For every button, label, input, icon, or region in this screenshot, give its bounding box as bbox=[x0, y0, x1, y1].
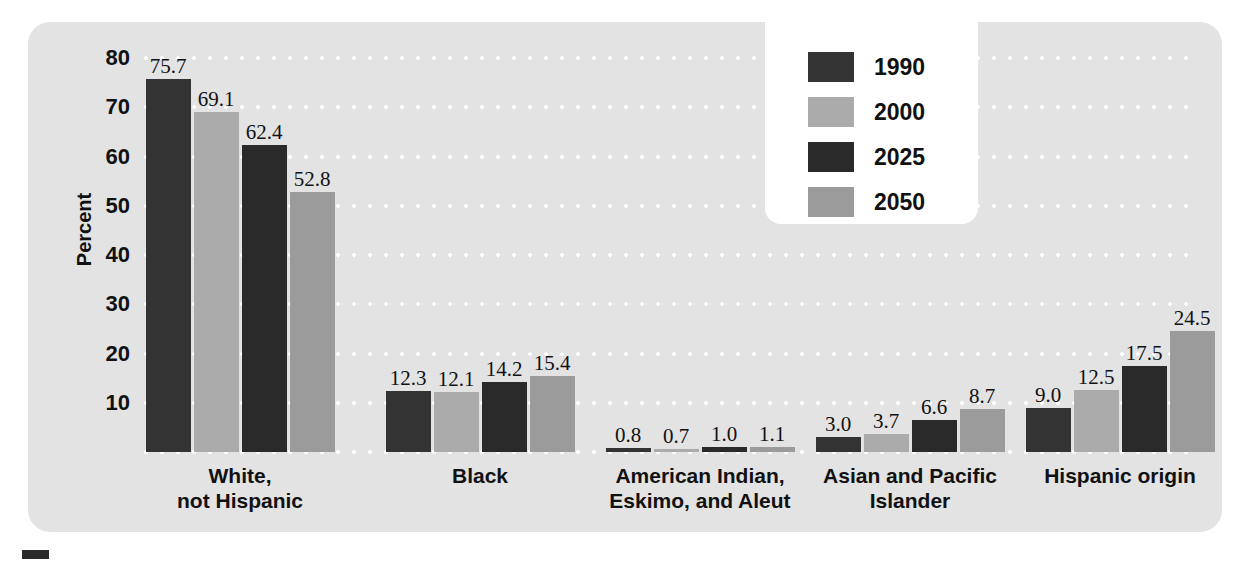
chart-panel: 8070605040302010 Percent 75.769.162.452.… bbox=[28, 22, 1222, 532]
legend-item-2000: 2000 bbox=[808, 93, 925, 131]
bar-value-label: 6.6 bbox=[921, 397, 947, 418]
bar-2050-0: 52.8 bbox=[290, 192, 335, 452]
y-tick-label-70: 70 bbox=[86, 96, 130, 118]
legend-label: 2025 bbox=[874, 146, 925, 169]
bar-value-label: 69.1 bbox=[198, 89, 235, 110]
bar-2025-0: 62.4 bbox=[242, 145, 287, 452]
y-axis-title: Percent bbox=[73, 140, 96, 320]
bar-2000-3: 3.7 bbox=[864, 434, 909, 452]
bar-2000-2: 0.7 bbox=[654, 449, 699, 452]
bar-value-label: 24.5 bbox=[1174, 308, 1211, 329]
bar-value-label: 12.1 bbox=[438, 369, 475, 390]
bar-2050-2: 1.1 bbox=[750, 447, 795, 452]
bar-2025-2: 1.0 bbox=[702, 447, 747, 452]
y-tick-label-10: 10 bbox=[86, 392, 130, 414]
legend-swatch-icon bbox=[808, 187, 854, 217]
bar-value-label: 3.7 bbox=[873, 411, 899, 432]
bar-value-label: 3.0 bbox=[825, 414, 851, 435]
legend-swatch-icon bbox=[808, 142, 854, 172]
bar-value-label: 75.7 bbox=[150, 56, 187, 77]
footnote-marker-swatch bbox=[22, 550, 49, 559]
bar-group-4: 9.012.517.524.5 bbox=[1026, 58, 1215, 452]
bar-2000-0: 69.1 bbox=[194, 112, 239, 452]
bar-1990-2: 0.8 bbox=[606, 448, 651, 452]
legend-item-2025: 2025 bbox=[808, 138, 925, 176]
legend-item-2050: 2050 bbox=[808, 183, 925, 221]
bar-2025-4: 17.5 bbox=[1122, 366, 1167, 452]
plot-area: 75.769.162.452.812.312.114.215.40.80.71.… bbox=[138, 58, 1198, 452]
bar-value-label: 1.0 bbox=[711, 424, 737, 445]
bar-value-label: 0.8 bbox=[615, 425, 641, 446]
bar-value-label: 17.5 bbox=[1126, 343, 1163, 364]
bar-value-label: 0.7 bbox=[663, 426, 689, 447]
bar-1990-4: 9.0 bbox=[1026, 408, 1071, 452]
bar-1990-0: 75.7 bbox=[146, 79, 191, 452]
bar-value-label: 52.8 bbox=[294, 169, 331, 190]
legend-item-1990: 1990 bbox=[808, 48, 925, 86]
bar-value-label: 1.1 bbox=[759, 424, 785, 445]
legend-label: 1990 bbox=[874, 56, 925, 79]
legend-swatch-icon bbox=[808, 52, 854, 82]
bar-2025-1: 14.2 bbox=[482, 382, 527, 452]
bar-2050-1: 15.4 bbox=[530, 376, 575, 452]
legend-swatch-icon bbox=[808, 97, 854, 127]
bar-2050-3: 8.7 bbox=[960, 409, 1005, 452]
y-tick-label-80: 80 bbox=[86, 47, 130, 69]
bar-value-label: 15.4 bbox=[534, 353, 571, 374]
bar-value-label: 12.3 bbox=[390, 368, 427, 389]
bar-value-label: 14.2 bbox=[486, 359, 523, 380]
bar-2025-3: 6.6 bbox=[912, 420, 957, 453]
category-label-0: White, not Hispanic bbox=[110, 464, 370, 514]
bar-value-label: 62.4 bbox=[246, 122, 283, 143]
legend-label: 2050 bbox=[874, 191, 925, 214]
bar-value-label: 12.5 bbox=[1078, 367, 1115, 388]
bar-2000-4: 12.5 bbox=[1074, 390, 1119, 452]
bar-2050-4: 24.5 bbox=[1170, 331, 1215, 452]
bar-value-label: 8.7 bbox=[969, 386, 995, 407]
chart-legend: 1990200020252050 bbox=[765, 22, 978, 224]
bar-group-1: 12.312.114.215.4 bbox=[386, 58, 575, 452]
bar-1990-3: 3.0 bbox=[816, 437, 861, 452]
y-tick-label-20: 20 bbox=[86, 343, 130, 365]
bar-group-0: 75.769.162.452.8 bbox=[146, 58, 335, 452]
legend-label: 2000 bbox=[874, 101, 925, 124]
bar-2000-1: 12.1 bbox=[434, 392, 479, 452]
category-label-4: Hispanic origin bbox=[990, 464, 1222, 489]
bar-1990-1: 12.3 bbox=[386, 391, 431, 452]
bar-value-label: 9.0 bbox=[1035, 385, 1061, 406]
